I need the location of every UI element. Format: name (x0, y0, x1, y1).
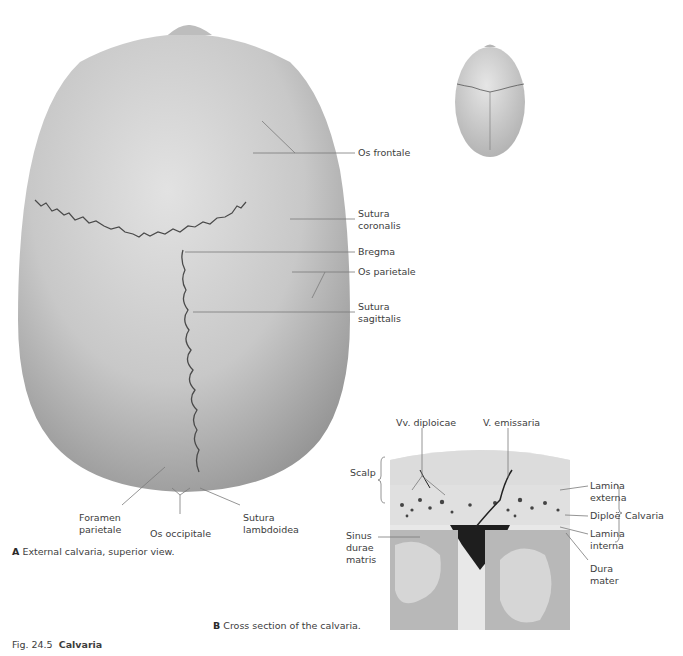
label-dura-mater: Dura mater (590, 563, 619, 587)
figure-title: Fig. 24.5 Calvaria (12, 639, 102, 650)
calvaria-superior-view-illustration (0, 0, 683, 656)
label-lamina-interna: Lamina interna (590, 528, 625, 552)
skull-outline (18, 29, 350, 493)
nasion-tip (168, 25, 212, 35)
label-sutura-lambdoidea: Sutura lambdoidea (243, 512, 299, 536)
label-sutura-sagittalis: Sutura sagittalis (358, 301, 401, 325)
label-scalp: Scalp (350, 467, 376, 479)
label-os-frontale: Os frontale (358, 147, 410, 159)
label-diploe: Diploë (590, 510, 620, 522)
label-sutura-coronalis: Sutura coronalis (358, 208, 401, 232)
label-calvaria: Calvaria (625, 510, 664, 522)
label-vv-diploicae: Vv. diploicae (396, 417, 456, 429)
label-bregma: Bregma (358, 246, 395, 258)
small-reference-skull (455, 45, 525, 158)
label-foramen-parietale: Foramen parietale (79, 512, 121, 536)
label-os-occipitale: Os occipitale (150, 528, 211, 540)
label-lamina-externa: Lamina externa (590, 480, 626, 504)
label-v-emissaria: V. emissaria (483, 417, 540, 429)
label-sinus-durae-matris: Sinus durae matris (346, 530, 376, 566)
caption-panel-a: A External calvaria, superior view. (12, 546, 175, 557)
caption-panel-b: B Cross section of the calvaria. (213, 620, 361, 631)
calvaria-cross-section-illustration (378, 428, 622, 635)
label-os-parietale: Os parietale (358, 266, 416, 278)
